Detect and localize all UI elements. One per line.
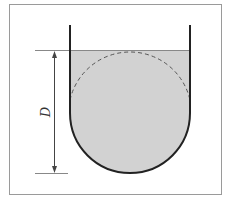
diagram-canvas: D <box>0 0 229 201</box>
vessel-diagram: D <box>0 0 229 201</box>
dimension-label: D <box>38 106 53 118</box>
